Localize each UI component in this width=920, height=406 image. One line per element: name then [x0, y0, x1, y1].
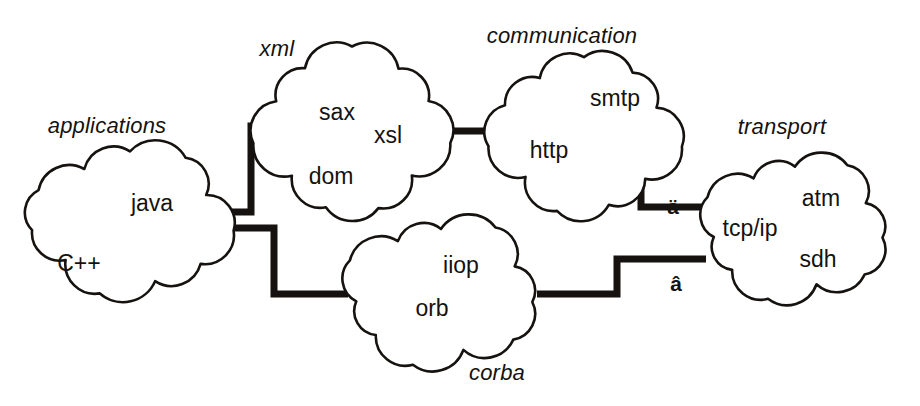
node-communication-smtp: smtp: [590, 87, 640, 110]
node-transport-tcp-ip: tcp/ip: [723, 217, 778, 240]
cloud-title-transport: transport: [738, 116, 827, 138]
node-applications-c-: C++: [57, 252, 100, 275]
node-corba-orb: orb: [415, 297, 448, 320]
connector-label-http: http: [525, 139, 573, 162]
node-corba-iiop: iiop: [443, 254, 479, 277]
node-transport-atm: atm: [802, 187, 840, 210]
cloud-title-applications: applications: [48, 115, 167, 137]
cloud-title-corba: corba: [469, 362, 525, 384]
cloud-title-communication: communication: [487, 25, 638, 47]
node-xml-dom: dom: [309, 165, 354, 188]
marker-lower-glyph: â: [670, 273, 682, 294]
cloud-applications: [25, 140, 235, 302]
cloud-title-xml: xml: [260, 38, 295, 60]
cloud-communication: [484, 51, 683, 221]
cloud-corba: [342, 214, 535, 371]
node-transport-sdh: sdh: [799, 248, 836, 271]
connector-applications-to-corba: [232, 228, 348, 294]
cloud-diagram: applicationsjavaC++xmlsaxxsldomcommunica…: [0, 0, 920, 406]
node-xml-sax: sax: [319, 101, 355, 124]
node-xml-xsl: xsl: [374, 124, 402, 147]
marker-upper-glyph: ä: [667, 196, 679, 217]
cloud-xml: [251, 42, 454, 221]
node-applications-java: java: [131, 192, 173, 215]
